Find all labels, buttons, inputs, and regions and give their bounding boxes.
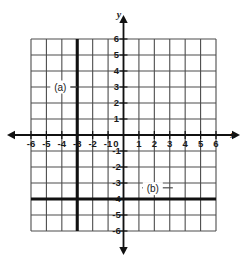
y-tick-label: 1 <box>114 113 120 124</box>
y-tick-label: 6 <box>114 33 119 44</box>
x-tick-label: 5 <box>198 138 204 149</box>
y-tick-label: -4 <box>112 193 121 204</box>
x-tick-label: -5 <box>42 138 51 149</box>
x-tick-label: -4 <box>58 138 67 149</box>
x-tick-label: -6 <box>27 138 35 149</box>
y-tick-label: 4 <box>114 65 120 76</box>
x-tick-label: 4 <box>183 138 189 149</box>
y-tick-label: 3 <box>114 81 119 92</box>
y-tick-label: -3 <box>112 177 120 188</box>
x-tick-label: 1 <box>136 138 142 149</box>
y-tick-label: 2 <box>114 97 119 108</box>
y-tick-label: 5 <box>114 49 120 60</box>
x-tick-label: -3 <box>73 138 81 149</box>
x-tick-label: 2 <box>152 138 157 149</box>
callout-label-b: (b) <box>147 183 159 194</box>
y-tick-label: -1 <box>112 145 121 156</box>
callout-label-a: (a) <box>54 82 66 93</box>
cartesian-plane-svg: -6-5-4-3-2-10123456654321-1-2-3-4-5-6 x … <box>0 0 251 258</box>
coordinate-grid-figure: -6-5-4-3-2-10123456654321-1-2-3-4-5-6 x … <box>0 0 251 258</box>
x-axis-label: x <box>230 129 236 140</box>
x-tick-label: -2 <box>88 138 96 149</box>
y-tick-label: -5 <box>112 209 121 220</box>
y-tick-label: -2 <box>112 161 120 172</box>
x-tick-label: 6 <box>213 138 218 149</box>
y-axis-label: y <box>116 9 122 20</box>
x-tick-label: 3 <box>167 138 172 149</box>
y-tick-label: -6 <box>112 225 120 236</box>
